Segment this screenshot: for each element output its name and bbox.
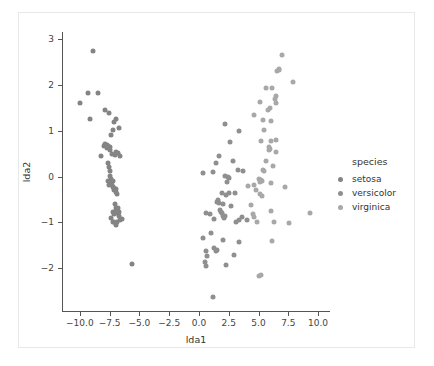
legend-marker-icon	[338, 177, 343, 182]
x-tick-label: 10.0	[308, 318, 328, 328]
scatter-point	[217, 153, 222, 158]
scatter-point	[78, 100, 83, 105]
x-tick	[288, 312, 289, 316]
scatter-point	[277, 66, 282, 71]
scatter-point	[223, 262, 228, 267]
scatter-point	[220, 202, 225, 207]
y-tick-label: 1	[48, 126, 54, 136]
scatter-point	[110, 127, 115, 132]
scatter-point	[283, 184, 288, 189]
scatter-point	[236, 128, 241, 133]
scatter-point	[269, 209, 274, 214]
legend-items: setosaversicolorvirginica	[338, 172, 426, 214]
scatter-point	[201, 171, 206, 176]
figure: −10.0−7.5−5.0−2.50.02.55.07.510.0 −2−101…	[0, 0, 434, 366]
y-tick-label: 3	[48, 34, 54, 44]
x-axis-label: lda1	[186, 334, 207, 345]
legend-marker-icon	[338, 191, 343, 196]
scatter-point	[86, 90, 91, 95]
scatter-point	[255, 220, 260, 225]
scatter-point	[260, 193, 265, 198]
scatter-point	[119, 216, 124, 221]
scatter-point	[98, 153, 103, 158]
scatter-point	[260, 117, 265, 122]
plot-area: −10.0−7.5−5.0−2.50.02.55.07.510.0 −2−101…	[62, 32, 330, 312]
scatter-point	[90, 49, 95, 54]
x-tick	[199, 312, 200, 316]
legend-label: virginica	[352, 202, 390, 212]
legend-item-versicolor[interactable]: versicolor	[338, 186, 426, 200]
scatter-point	[258, 138, 263, 143]
scatter-point	[245, 218, 250, 223]
scatter-point	[272, 220, 277, 225]
scatter-point	[250, 212, 255, 217]
scatter-point	[201, 235, 206, 240]
scatter-point	[223, 121, 228, 126]
x-tick	[259, 312, 260, 316]
x-tick-label: 5.0	[251, 318, 265, 328]
scatter-point	[110, 210, 115, 215]
scatter-point	[214, 160, 219, 165]
scatter-point	[96, 90, 101, 95]
scatter-point	[220, 237, 225, 242]
scatter-point	[231, 252, 236, 257]
scatter-point	[241, 168, 246, 173]
scatter-point	[228, 204, 233, 209]
scatter-point	[227, 140, 232, 145]
scatter-point	[274, 137, 279, 142]
x-tick-label: 7.5	[281, 318, 295, 328]
scatter-point	[210, 170, 215, 175]
y-tick	[58, 39, 62, 40]
scatter-point	[204, 211, 209, 216]
legend-label: setosa	[352, 174, 381, 184]
scatter-point	[269, 180, 274, 185]
scatter-point	[264, 86, 269, 91]
y-tick	[58, 131, 62, 132]
scatter-point	[209, 230, 214, 235]
y-tick	[58, 222, 62, 223]
scatter-point	[262, 127, 267, 132]
legend-title: species	[352, 156, 426, 167]
y-tick-label: −1	[41, 217, 54, 227]
y-tick-label: 2	[48, 80, 54, 90]
scatter-point	[106, 179, 111, 184]
scatter-point	[221, 215, 226, 220]
scatter-point	[219, 190, 224, 195]
scatter-point	[279, 52, 284, 57]
scatter-point	[267, 147, 272, 152]
legend-marker-icon	[338, 205, 343, 210]
legend: species setosaversicolorvirginica	[338, 156, 426, 214]
scatter-point	[204, 253, 209, 258]
scatter-point	[269, 86, 274, 91]
x-tick-label: 2.5	[222, 318, 236, 328]
scatter-point	[269, 138, 274, 143]
y-tick	[58, 268, 62, 269]
scatter-point	[258, 273, 263, 278]
scatter-point	[230, 158, 235, 163]
scatter-point	[291, 80, 296, 85]
scatter-point	[237, 239, 242, 244]
scatter-point	[204, 264, 209, 269]
legend-item-virginica[interactable]: virginica	[338, 200, 426, 214]
y-tick	[58, 85, 62, 86]
x-tick-label: −7.5	[99, 318, 121, 328]
scatter-point	[224, 180, 229, 185]
scatter-point	[266, 108, 271, 113]
x-tick	[80, 312, 81, 316]
scatter-point	[87, 117, 92, 122]
x-tick-label: −2.5	[158, 318, 180, 328]
legend-item-setosa[interactable]: setosa	[338, 172, 426, 186]
scatter-point	[248, 203, 253, 208]
scatter-point	[251, 182, 256, 187]
scatter-point	[118, 153, 123, 158]
scatter-point	[269, 238, 274, 243]
scatter-point	[263, 158, 268, 163]
y-tick-label: −2	[41, 263, 54, 273]
scatter-point	[235, 167, 240, 172]
scatter-point	[212, 216, 217, 221]
scatter-point	[252, 112, 257, 117]
scatter-point	[116, 125, 121, 130]
y-axis-label: lda2	[21, 162, 32, 183]
x-tick	[318, 312, 319, 316]
scatter-point	[262, 168, 267, 173]
